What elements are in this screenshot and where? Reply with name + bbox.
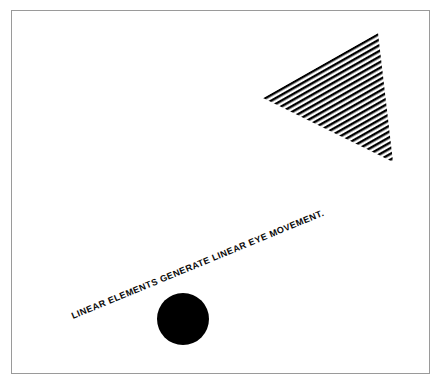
figure-canvas: LINEAR ELEMENTS GENERATE LINEAR EYE MOVE… [0, 0, 442, 387]
solid-circle [157, 293, 209, 345]
figure-artwork: LINEAR ELEMENTS GENERATE LINEAR EYE MOVE… [0, 0, 442, 387]
